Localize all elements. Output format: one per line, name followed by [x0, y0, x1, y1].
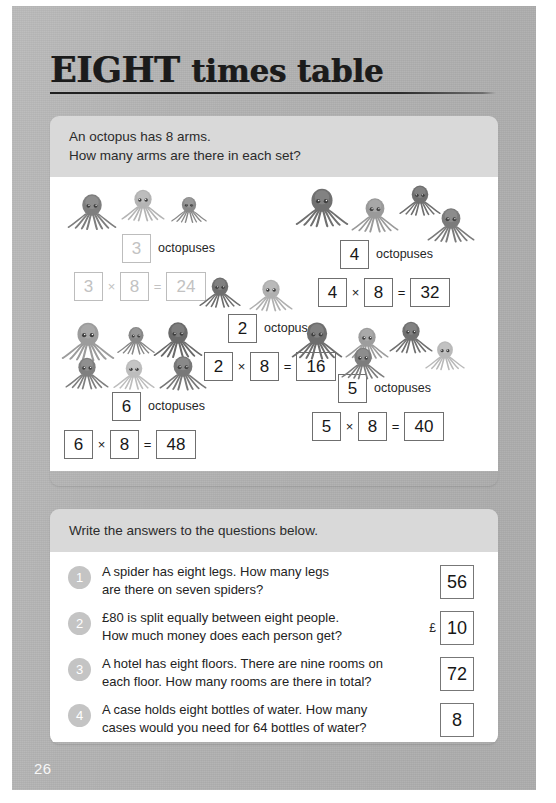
factor-b-box-5[interactable]: 8 [358, 412, 387, 441]
count-box-6[interactable]: 6 [112, 392, 141, 421]
answer-box-2[interactable]: 10 [440, 611, 474, 645]
octopus-icon [170, 193, 208, 224]
question-text-1-line2: are there on seven spiders? [102, 581, 402, 599]
octopus-icon [158, 351, 208, 392]
octopus-group-6: 6octopuses 6×8=48 [60, 317, 260, 459]
octopus-icon [116, 323, 156, 356]
count-box-3[interactable]: 3 [122, 234, 151, 263]
question-text-4: A case holds eight bottles of water. How… [102, 701, 432, 737]
question-text-4-line1: A case holds eight bottles of water. How… [102, 701, 432, 719]
octopus-icon [340, 343, 386, 381]
octopus-illustrations-6 [60, 317, 260, 391]
octopus-icon [426, 203, 476, 244]
answer-area-3: 72 [436, 656, 474, 691]
title-underline [50, 92, 496, 94]
answer-box-4[interactable]: 8 [440, 703, 474, 737]
question-row-3: 3 A hotel has eight floors. There are ni… [50, 654, 498, 698]
octopus-icon [66, 189, 118, 232]
equation-row-6: 6×8=48 [64, 428, 260, 458]
worksheet-page: EIGHT times table An octopus has 8 arms.… [12, 6, 536, 790]
octopus-icon [112, 355, 156, 391]
page-title-rest: times table [191, 53, 383, 89]
questions-instruction: Write the answers to the questions below… [50, 509, 498, 552]
page-title-strong: EIGHT [50, 49, 180, 90]
times-symbol-5: × [341, 412, 358, 441]
question-text-3: A hotel has eight floors. There are nine… [102, 655, 432, 691]
activity-instruction-line1: An octopus has 8 arms. [69, 127, 498, 146]
page-title: EIGHT times table [50, 50, 496, 94]
answer-box-1[interactable]: 56 [440, 565, 474, 599]
product-box-5[interactable]: 40 [404, 412, 444, 441]
factor-b-box-3[interactable]: 8 [120, 272, 149, 301]
octopus-icon [294, 183, 350, 229]
octopus-icon [64, 353, 110, 391]
times-symbol-6: × [93, 430, 110, 459]
page-number: 26 [34, 760, 52, 777]
octopus-icon [120, 185, 166, 223]
octopus-icon [350, 193, 400, 234]
question-text-3-line1: A hotel has eight floors. There are nine… [102, 655, 432, 673]
question-number-2: 2 [68, 612, 91, 635]
answer-area-4: 8 [436, 702, 474, 737]
questions-panel: Write the answers to the questions below… [50, 509, 498, 744]
octopus-illustrations-4 [294, 181, 484, 239]
times-symbol-4: × [347, 278, 364, 307]
product-box-6[interactable]: 48 [156, 430, 196, 459]
question-row-4: 4 A case holds eight bottles of water. H… [50, 700, 498, 744]
octopus-icon [424, 337, 466, 371]
factor-a-box-5[interactable]: 5 [312, 412, 341, 441]
page-title-text: EIGHT times table [50, 50, 496, 91]
octopus-illustrations-5 [290, 317, 486, 373]
count-label-4: octopuses [376, 240, 433, 269]
count-label-6: octopuses [148, 392, 205, 421]
factor-b-box-6[interactable]: 8 [110, 430, 139, 459]
octopus-icon [290, 317, 344, 361]
factor-a-box-3[interactable]: 3 [74, 272, 103, 301]
question-text-2-line1: £80 is split equally between eight peopl… [102, 609, 402, 627]
octopus-illustrations-3 [66, 185, 251, 233]
octopus-illustrations-2 [198, 273, 328, 313]
times-symbol-3: × [103, 272, 120, 301]
answer-area-2: £10 [429, 610, 474, 645]
questions-instruction-text: Write the answers to the questions below… [69, 521, 498, 540]
question-number-3: 3 [68, 658, 91, 681]
factor-b-box-4[interactable]: 8 [364, 278, 393, 307]
activity-panel: An octopus has 8 arms. How many arms are… [50, 116, 498, 486]
question-text-1: A spider has eight legs. How many legs a… [102, 563, 402, 599]
question-text-2: £80 is split equally between eight peopl… [102, 609, 402, 645]
question-number-4: 4 [68, 704, 91, 727]
answer-box-3[interactable]: 72 [440, 657, 474, 691]
product-box-4[interactable]: 32 [410, 278, 450, 307]
count-row-3: 3octopuses [122, 233, 251, 263]
equals-symbol-6: = [139, 430, 156, 459]
count-box-4[interactable]: 4 [340, 240, 369, 269]
activity-body: 3octopuses 3×8=24 [50, 177, 498, 471]
equals-symbol-4: = [393, 278, 410, 307]
count-row-6: 6octopuses [112, 391, 260, 421]
factor-a-box-6[interactable]: 6 [64, 430, 93, 459]
question-text-1-line1: A spider has eight legs. How many legs [102, 563, 402, 581]
octopus-group-5: 5octopuses 5×8=40 [290, 317, 486, 441]
question-text-3-line2: each floor. How many rooms are there in … [102, 673, 432, 691]
equals-symbol-3: = [149, 272, 166, 301]
answer-area-1: 56 [436, 564, 474, 599]
question-number-1: 1 [68, 566, 91, 589]
activity-instruction-line2: How many arms are there in each set? [69, 146, 498, 165]
question-text-4-line2: cases would you need for 64 bottles of w… [102, 719, 432, 737]
equation-row-5: 5×8=40 [312, 410, 486, 440]
octopus-icon [198, 273, 242, 309]
question-text-2-line2: How much money does each person get? [102, 627, 402, 645]
question-row-1: 1 A spider has eight legs. How many legs… [50, 562, 498, 606]
question-row-2: 2 £80 is split equally between eight peo… [50, 608, 498, 652]
count-label-3: octopuses [158, 234, 215, 263]
questions-body: 1 A spider has eight legs. How many legs… [50, 552, 498, 742]
octopus-icon [248, 275, 294, 313]
currency-symbol-2: £ [429, 621, 436, 635]
equals-symbol-5: = [387, 412, 404, 441]
activity-instruction: An octopus has 8 arms. How many arms are… [50, 116, 498, 177]
equation-row-4: 4×8=32 [318, 276, 484, 306]
